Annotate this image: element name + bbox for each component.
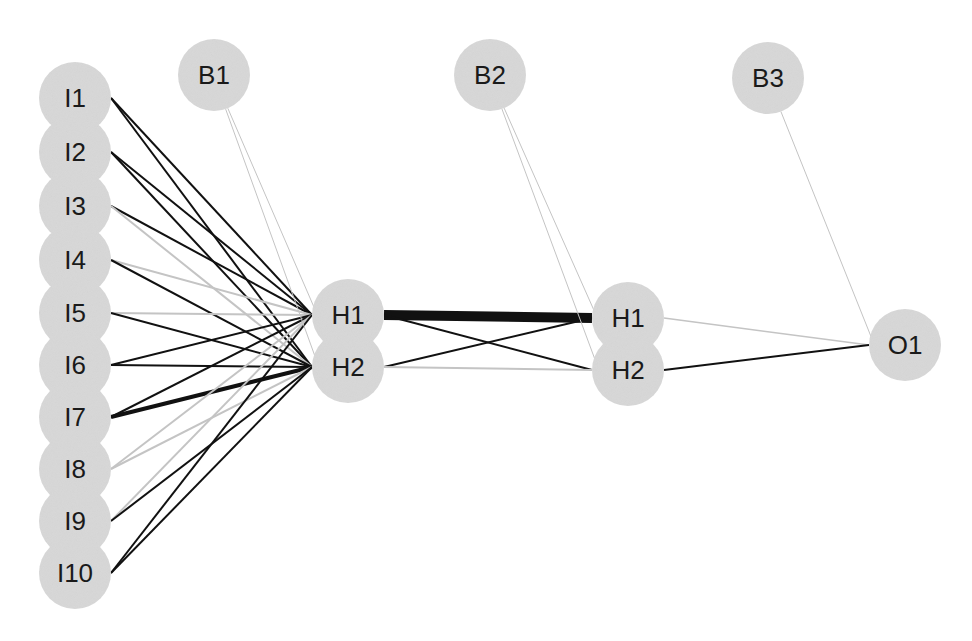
- neural-network-diagram: I1I2I3I4I5I6I7I8I9I10B1B2B3H1H2H1H2O1: [0, 0, 972, 641]
- edge-i1-h1a: [111, 98, 312, 315]
- node-h2b: H2: [592, 334, 664, 406]
- node-label: B3: [752, 63, 784, 93]
- node-label: I5: [64, 298, 86, 328]
- edge-b3-o1: [781, 112, 874, 345]
- node-h2a: H2: [312, 331, 384, 403]
- node-label: H2: [611, 355, 644, 385]
- edge-i5-h1a: [111, 313, 312, 315]
- node-label: I4: [64, 245, 86, 275]
- node-b1: B1: [178, 39, 250, 111]
- node-label: H1: [611, 303, 644, 333]
- node-i10: I10: [39, 537, 111, 609]
- edge-h2a-h1b: [384, 318, 592, 367]
- node-label: I7: [64, 402, 86, 432]
- edge-i3-h1a: [111, 206, 312, 315]
- node-label: I2: [64, 137, 86, 167]
- edge-i9-h1a: [111, 315, 312, 521]
- edge-i10-h1a: [111, 315, 312, 573]
- edges-layer: [111, 98, 874, 573]
- edge-h1a-h1b: [384, 315, 592, 318]
- node-o1: O1: [869, 309, 941, 381]
- edge-i6-h1a: [111, 315, 312, 365]
- node-b3: B3: [732, 42, 804, 114]
- node-label: I1: [64, 83, 86, 113]
- edge-h2a-h2b: [384, 367, 592, 370]
- node-label: B2: [474, 60, 506, 90]
- node-label: I9: [64, 506, 86, 536]
- node-b2: B2: [454, 39, 526, 111]
- node-label: I3: [64, 191, 86, 221]
- node-label: I6: [64, 350, 86, 380]
- node-label: I10: [57, 558, 93, 588]
- edge-i4-h1a: [111, 260, 312, 315]
- node-label: H2: [331, 352, 364, 382]
- node-label: O1: [888, 330, 923, 360]
- node-label: I8: [64, 454, 86, 484]
- edge-i10-h2a: [111, 367, 312, 573]
- edge-b2-h1b: [504, 108, 597, 318]
- nodes-layer: I1I2I3I4I5I6I7I8I9I10B1B2B3H1H2H1H2O1: [39, 39, 941, 609]
- edge-h2b-o1: [664, 345, 869, 370]
- edge-i8-h1a: [111, 315, 312, 469]
- node-label: H1: [331, 300, 364, 330]
- edge-h1b-o1: [664, 318, 869, 345]
- node-label: B1: [198, 60, 230, 90]
